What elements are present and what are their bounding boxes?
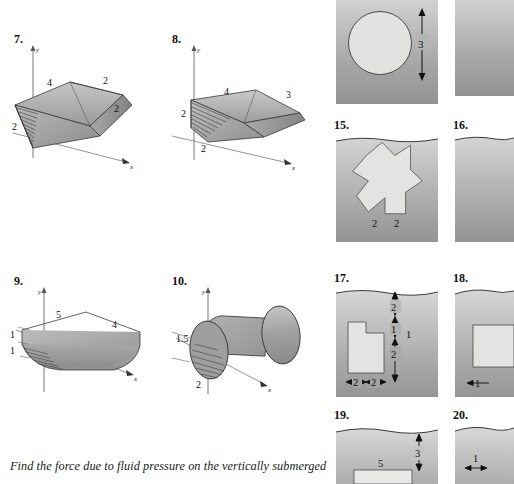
textbook-page: 7. y x [0,0,514,484]
panel-18-figure: 1 [455,285,514,397]
axis-label-y-9: y [37,288,42,296]
problem-number-17: 17. [334,271,349,286]
dimension-8-2: 3 [286,89,291,100]
exercise-instruction-text: Find the force due to fluid pressure on … [10,459,330,475]
dimension-8-3: 2 [181,108,186,119]
dimension-8-4: 2 [201,143,206,154]
dimension-7-2: 2 [103,75,108,86]
problem-number-18: 18. [453,271,468,286]
dimension-9-4: 1 [10,345,15,356]
water-region [455,0,514,96]
dimension-7-3: 2 [114,103,119,114]
panel-rect-top-right [455,0,514,96]
dimension-circle-3: 3 [418,38,424,50]
dimension-17-h1: 2 [353,377,358,388]
axis-label-y-8: y [196,46,201,54]
dimension-7-1: 4 [47,77,52,88]
panel-20-figure: 1 [455,422,514,484]
figure-7-trapezoidal-trough: y x 4 2 2 2 [8,38,168,178]
axis-label-y-10: y [201,288,206,296]
axis-label-x-9: x [133,375,138,383]
dimension-9-1: 5 [56,309,61,320]
dimension-17-top: 2 [391,302,396,313]
dimension-19-width: 5 [378,458,383,469]
panel-19-figure: 5 3 [336,422,438,484]
axis-label-x-7: x [129,163,134,171]
panel-15-cross-figure: 2 2 [336,132,438,242]
dimension-17-mid: 1 [391,324,396,335]
dimension-17-bottom: 2 [391,349,396,360]
dimension-9-2: 4 [112,319,117,330]
problem-number-16: 16. [453,118,468,133]
axis-label-x-8: x [291,164,296,172]
figure-10-cylinder: y x 1.5 2 [168,282,333,402]
dimension-15-b: 2 [394,218,399,229]
problem-number-19: 19. [334,408,349,423]
dimension-18-h: 1 [475,378,480,389]
panel-17-L-shape-figure: 2 1 2 1 2 2 [336,285,438,397]
axis-label-x-10: x [267,386,272,394]
panel-16-figure [455,132,514,242]
dimension-10-2: 2 [196,379,201,390]
figure-8-trapezoidal-trough: y x 4 3 2 2 [168,38,333,178]
problem-number-15: 15. [334,118,349,133]
dimension-17-h2: 2 [371,377,376,388]
dimension-7-4: 2 [12,121,17,132]
dimension-arrow-circle-vertical: 3 [408,4,436,88]
plate-circle [348,11,412,75]
dimension-15-a: 2 [372,218,377,229]
dimension-20-h: 1 [473,453,478,464]
dimension-19-depth: 3 [415,448,420,459]
dimension-9-3: 1 [10,329,15,340]
dimension-10-1: 1.5 [176,333,189,344]
dimension-8-1: 4 [224,86,229,97]
dimension-17-right: 1 [406,329,411,340]
axis-label-y-7: y [35,46,40,54]
figure-9-rounded-tank: y x 5 4 1 1 [8,282,168,402]
problem-number-20: 20. [453,408,468,423]
panel-circle-figure: 3 [336,0,438,104]
